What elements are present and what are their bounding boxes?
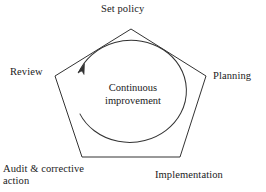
node-label-audit-line1: Audit & corrective — [3, 163, 84, 174]
continuous-improvement-diagram: Set policy Planning Implementation Audit… — [0, 0, 266, 192]
center-label-continuous-improvement: Continuousimprovement — [89, 82, 177, 107]
node-label-implementation: Implementation — [155, 169, 223, 181]
node-label-set-policy: Set policy — [101, 3, 144, 15]
node-label-audit-line2: action — [3, 175, 29, 186]
node-label-review: Review — [10, 66, 43, 78]
node-label-planning: Planning — [213, 70, 251, 82]
center-label-line1: Continuous — [109, 82, 157, 93]
center-label-line2: improvement — [105, 95, 161, 106]
node-label-audit-and-corrective-action: Audit & correctiveaction — [3, 163, 84, 186]
